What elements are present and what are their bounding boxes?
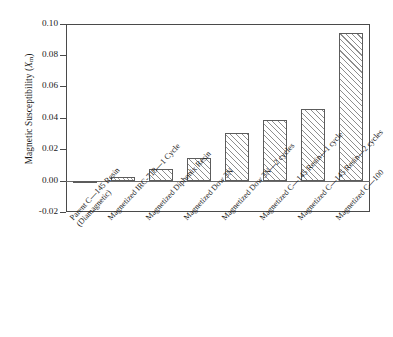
bar[interactable] — [111, 177, 135, 180]
bar[interactable] — [263, 120, 287, 181]
y-tick-label: 0.02 — [14, 144, 58, 153]
bar-slot — [180, 24, 218, 212]
y-axis-symbol: X — [24, 62, 34, 68]
y-axis-tick — [60, 212, 66, 213]
y-tick-label: 0.08 — [14, 50, 58, 59]
bar[interactable] — [149, 169, 173, 180]
bar-slot — [142, 24, 180, 212]
bar[interactable] — [301, 109, 325, 181]
bar[interactable] — [225, 133, 249, 181]
bar[interactable] — [339, 33, 363, 180]
y-tick-label: 0.06 — [14, 81, 58, 90]
chart-container: Magnetic Susceptibility (Xm) 0.10 0.08 0… — [0, 0, 393, 337]
bar-slot — [256, 24, 294, 212]
y-tick-label: 0.00 — [14, 176, 58, 185]
bar-slot — [294, 24, 332, 212]
y-tick-label: 0.04 — [14, 113, 58, 122]
bar-slot — [332, 24, 370, 212]
bar[interactable] — [187, 158, 211, 181]
bar-slot — [66, 24, 104, 212]
y-tick-label: -0.02 — [14, 207, 58, 216]
y-tick-label: 0.10 — [14, 19, 58, 28]
bar-series — [66, 24, 370, 212]
bar[interactable] — [73, 181, 97, 183]
bar-slot — [218, 24, 256, 212]
bar-slot — [104, 24, 142, 212]
